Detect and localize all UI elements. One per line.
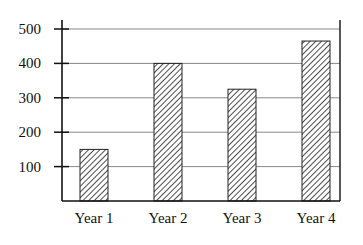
bar-year-2: [154, 63, 182, 201]
y-axis-labels: 100200300400500: [19, 21, 42, 175]
y-tick-label: 300: [19, 90, 42, 106]
x-category-label: Year 2: [149, 210, 188, 226]
x-axis-labels: Year 1Year 2Year 3Year 4: [75, 210, 336, 226]
bar-year-4: [302, 41, 330, 201]
x-category-label: Year 3: [223, 210, 262, 226]
x-category-label: Year 1: [75, 210, 114, 226]
bar-year-3: [228, 89, 256, 201]
bars: [80, 41, 330, 201]
bar-chart: 100200300400500 Year 1Year 2Year 3Year 4: [0, 0, 363, 245]
y-tick-label: 400: [19, 55, 42, 71]
y-tick-label: 100: [19, 159, 42, 175]
y-tick-label: 200: [19, 124, 42, 140]
x-category-label: Year 4: [297, 210, 336, 226]
y-tick-label: 500: [19, 21, 42, 37]
gridlines: [62, 29, 340, 167]
bar-year-1: [80, 149, 108, 201]
